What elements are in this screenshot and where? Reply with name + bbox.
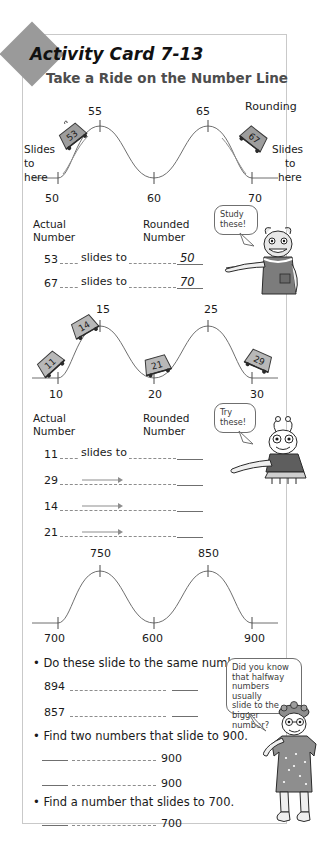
table2-header-rounded-line2: Number — [143, 425, 185, 438]
card-badge-label: Activity Card 7-13 — [30, 44, 280, 64]
table1-row1-connector: slides to — [79, 275, 129, 288]
sled-29-icon: 29 — [245, 348, 275, 374]
slides-left-line3: here — [24, 171, 48, 183]
sled-53-icon: 53 — [58, 122, 88, 148]
table1-row0-connector: slides to — [79, 251, 129, 264]
number-line-1-tick-60: 60 — [147, 192, 161, 205]
table2-row2-arrow-icon — [82, 502, 124, 510]
slides-right-line3: here — [278, 171, 302, 183]
table2-header-rounded-line1: Rounded — [143, 412, 189, 425]
table2-row0-actual: 11 — [44, 448, 58, 461]
slides-left-line1: Slides — [24, 143, 55, 155]
sled-21-icon: 21 — [143, 352, 173, 378]
monster-character-icon — [216, 222, 328, 302]
number-line-2-tick-30: 30 — [250, 388, 264, 401]
number-line-3-tick-600: 600 — [142, 632, 163, 645]
page-title: Take a Ride on the Number Line — [22, 70, 312, 86]
table2-row3-arrow-icon — [82, 528, 124, 536]
table1-header-actual-line2: Number — [33, 231, 75, 244]
table2-row0-connector: slides to — [79, 446, 129, 459]
table1-row1-rounded: 70 — [180, 275, 195, 289]
table2-row2-actual: 14 — [44, 500, 58, 513]
number-line-2-peak-25: 25 — [204, 303, 218, 316]
table1-header-rounded-line2: Number — [143, 231, 185, 244]
slides-right-line1: Slides — [272, 143, 303, 155]
question-2-text: • Find two numbers that slide to 900. — [33, 729, 248, 743]
sled-14-icon: 14 — [70, 313, 100, 339]
number-line-1-tick-70: 70 — [248, 192, 262, 205]
number-line-1-peak-65: 65 — [196, 105, 210, 118]
slides-right-line2: to — [285, 157, 296, 169]
question-1-text: • Do these slide to the same number? — [33, 656, 253, 670]
number-line-3-peak-750: 750 — [90, 547, 111, 560]
question-3-text: • Find a number that slides to 700. — [33, 795, 234, 809]
question-2-row1-target: 900 — [161, 777, 182, 790]
table1-row0-rounded: 50 — [180, 251, 195, 265]
table2-header-actual-line1: Actual — [33, 412, 66, 425]
table2-row1-arrow-icon — [82, 476, 124, 484]
number-line-2-tick-10: 10 — [49, 388, 63, 401]
sled-11-icon: 11 — [36, 350, 66, 376]
slides-left-line2: to — [24, 157, 35, 169]
table1-header-actual-line1: Actual — [33, 218, 66, 231]
table2-header-actual-line2: Number — [33, 425, 75, 438]
question-1-row0-number: 894 — [44, 680, 65, 693]
number-line-3-peak-850: 850 — [198, 547, 219, 560]
table1-header-rounded-line1: Rounded — [143, 218, 189, 231]
sled-67-icon: 67 — [240, 126, 270, 152]
table1-row1-actual: 67 — [44, 277, 58, 290]
table1-row0-actual: 53 — [44, 253, 58, 266]
question-2-row0-target: 900 — [161, 752, 182, 765]
number-line-2-tick-20: 20 — [148, 388, 162, 401]
number-line-3-tick-900: 900 — [244, 632, 265, 645]
table2-row3-actual: 21 — [44, 526, 58, 539]
number-line-1-peak-55: 55 — [88, 105, 102, 118]
number-line-1-tick-50: 50 — [45, 192, 59, 205]
question-1-row1-number: 857 — [44, 706, 65, 719]
number-line-3-tick-700: 700 — [44, 632, 65, 645]
table2-row1-actual: 29 — [44, 474, 58, 487]
number-line-3 — [30, 545, 282, 635]
bug-character-icon — [218, 418, 330, 498]
grandma-character-icon — [258, 700, 332, 828]
rounding-label: Rounding — [245, 100, 297, 113]
question-3-target: 700 — [161, 817, 182, 830]
did-you-know-line3: numbers usually — [232, 682, 296, 701]
